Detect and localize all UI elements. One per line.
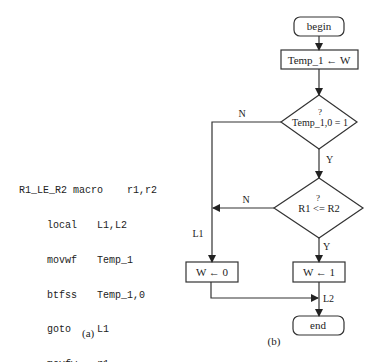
decision1-label: Temp_1,0 = 1	[292, 117, 348, 128]
yes-label-1: Y	[326, 154, 333, 165]
no-label-2: N	[242, 194, 249, 205]
yes-label-2: Y	[323, 241, 330, 252]
no-label-1: N	[238, 108, 245, 119]
assign-w1-label: W ← 1	[303, 266, 335, 278]
label-l1: L1	[192, 228, 203, 239]
decision1-question-mark: ?	[318, 107, 322, 117]
flowchart: begin Temp_1 ← W ? Temp_1,0 = 1 ? R1 <= …	[0, 0, 382, 362]
assign-temp-label: Temp_1 ← W	[288, 54, 351, 66]
decision2-question-mark: ?	[316, 193, 320, 203]
begin-label: begin	[307, 20, 332, 32]
assign-w0-label: W ← 0	[196, 266, 229, 278]
label-l2: L2	[323, 293, 334, 304]
decision2-label: R1 <= R2	[298, 203, 340, 214]
end-label: end	[310, 319, 326, 331]
caption-b: (b)	[268, 335, 281, 348]
